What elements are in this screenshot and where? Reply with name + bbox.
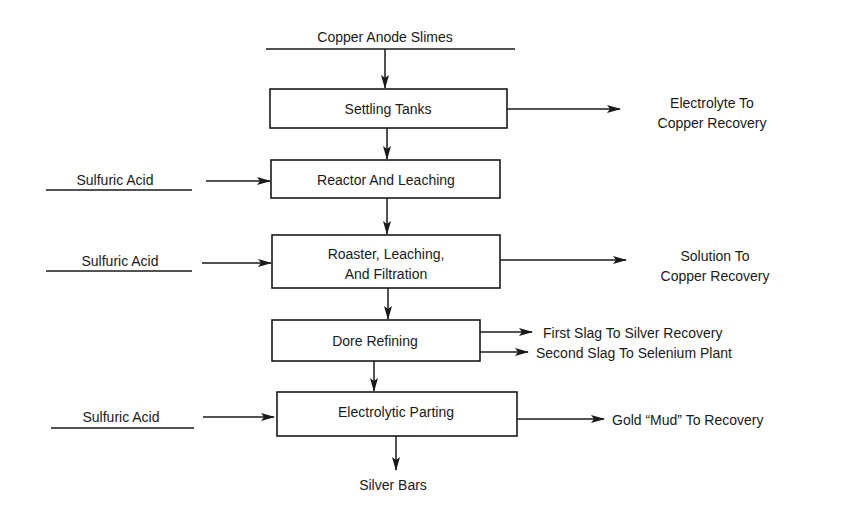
input-copper-anode-slimes: Copper Anode Slimes (266, 29, 515, 49)
output-gold-mud: Gold “Mud” To Recovery (612, 412, 763, 428)
input-label: Copper Anode Slimes (317, 29, 452, 45)
step-label: Reactor And Leaching (317, 172, 455, 188)
step-label-line1: Roaster, Leaching, (328, 246, 445, 262)
output-label-line1: Solution To (680, 248, 749, 264)
output-label-line2: Copper Recovery (661, 268, 770, 284)
step-label-line2: And Filtration (345, 266, 427, 282)
output-second-slag: Second Slag To Selenium Plant (536, 345, 732, 361)
output-electrolyte: Electrolyte To Copper Recovery (658, 95, 767, 131)
final-output-silver-bars: Silver Bars (359, 477, 427, 493)
step-label: Settling Tanks (345, 101, 432, 117)
side-input-label: Sulfuric Acid (81, 253, 158, 269)
flowchart-canvas: Copper Anode Slimes Settling Tanks Elect… (0, 0, 861, 514)
output-solution: Solution To Copper Recovery (661, 248, 770, 284)
step-label: Electrolytic Parting (338, 404, 454, 420)
side-input-label: Sulfuric Acid (76, 172, 153, 188)
side-input-sulfuric-acid-1: Sulfuric Acid (46, 172, 192, 190)
step-dore-refining: Dore Refining (272, 320, 480, 361)
output-label-line1: Electrolyte To (670, 95, 754, 111)
step-label: Dore Refining (332, 333, 418, 349)
output-label-line2: Copper Recovery (658, 115, 767, 131)
step-roaster-leaching-filtration: Roaster, Leaching, And Filtration (272, 235, 500, 288)
output-first-slag: First Slag To Silver Recovery (543, 325, 722, 341)
side-input-label: Sulfuric Acid (82, 409, 159, 425)
side-input-sulfuric-acid-3: Sulfuric Acid (51, 409, 194, 428)
step-reactor-leaching: Reactor And Leaching (271, 160, 500, 198)
step-electrolytic-parting: Electrolytic Parting (277, 392, 517, 436)
side-input-sulfuric-acid-2: Sulfuric Acid (46, 253, 192, 271)
step-settling-tanks: Settling Tanks (270, 89, 507, 128)
